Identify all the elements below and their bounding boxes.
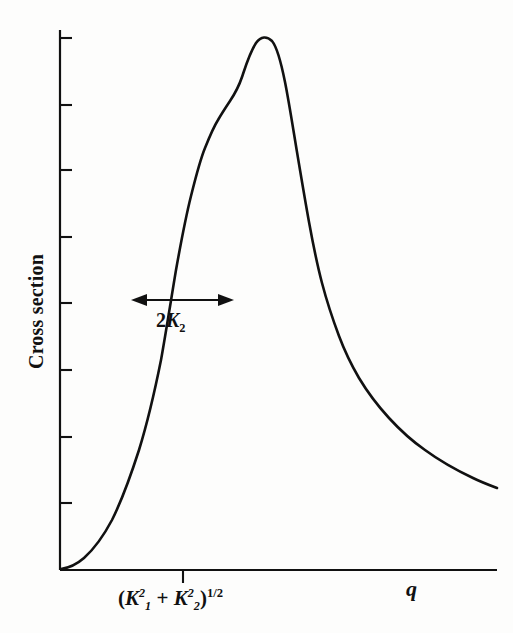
x-label-k2: K bbox=[174, 586, 188, 610]
x-label-exponent: 1/2 bbox=[207, 586, 223, 600]
x-label-plus: + bbox=[151, 586, 173, 610]
x-axis-variable-label: q bbox=[406, 576, 417, 602]
width-annotation-label: 2K2 bbox=[156, 309, 186, 336]
y-axis-title: Cross section bbox=[25, 192, 48, 432]
width-arrow-head-left bbox=[131, 294, 147, 306]
x-label-k1-sup: 2 bbox=[139, 586, 145, 600]
width-arrow bbox=[131, 294, 234, 306]
x-label-open-paren: ( bbox=[118, 586, 125, 610]
x-axis-tick-label: (K21 + K22)1/2 bbox=[118, 586, 223, 614]
x-label-k1: K bbox=[125, 586, 139, 610]
width-annotation-symbol: K bbox=[166, 309, 179, 331]
x-label-close-paren: ) bbox=[200, 586, 207, 610]
cross-section-curve bbox=[61, 37, 497, 569]
width-annotation-prefix: 2 bbox=[156, 309, 166, 331]
y-axis-ticks bbox=[60, 38, 72, 503]
figure-root: Cross section 2K2 (K21 + K22)1/2 q bbox=[0, 0, 513, 633]
plot-svg bbox=[0, 0, 513, 633]
width-annotation-subscript: 2 bbox=[179, 321, 185, 335]
x-label-k2-sup: 2 bbox=[188, 586, 194, 600]
width-arrow-head-right bbox=[218, 294, 234, 306]
